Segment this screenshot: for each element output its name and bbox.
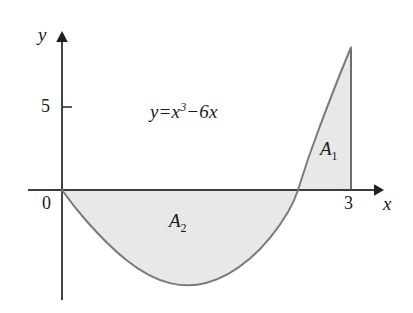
region-label-a1: A1 (320, 139, 338, 162)
y-tick-label-5: 5 (41, 97, 50, 115)
region-a1-subscript: 1 (332, 149, 338, 163)
region-a1-letter: A (320, 138, 332, 159)
equation-minus: − (186, 101, 199, 122)
shaded-region-a2 (62, 190, 298, 285)
plot-canvas (0, 0, 413, 313)
equation-base: x (172, 101, 181, 122)
region-a2-subscript: 2 (181, 221, 187, 235)
origin-label: 0 (42, 194, 51, 212)
region-a2-letter: A (169, 210, 181, 231)
y-axis-label: y (38, 25, 46, 44)
equation-lhs: y (150, 101, 159, 122)
x-axis-label: x (383, 194, 391, 213)
equation-equals: = (159, 101, 172, 122)
figure-container: y x 5 0 3 y=x3−6x A1 A2 (0, 0, 413, 313)
equation-annotation: y=x3−6x (150, 101, 218, 121)
x-tick-label-3: 3 (344, 194, 353, 212)
y-axis-arrowhead (56, 31, 68, 42)
equation-term: 6x (199, 101, 217, 122)
region-label-a2: A2 (169, 211, 187, 234)
